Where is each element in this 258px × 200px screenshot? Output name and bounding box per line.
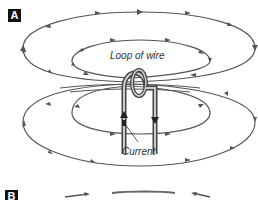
current-pointer (125, 124, 138, 142)
wire-loop (124, 70, 155, 154)
magnetic-field-diagram (0, 0, 258, 200)
current-down-arrow (151, 117, 159, 124)
panel-b-label: B (5, 190, 18, 200)
loop-of-wire-label: Loop of wire (110, 50, 164, 61)
current-up-arrow (120, 111, 128, 118)
current-label: Current (122, 146, 155, 157)
